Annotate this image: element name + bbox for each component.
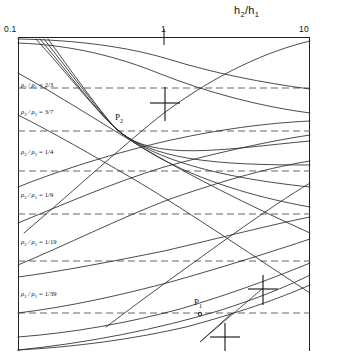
point-label-p2: P2 [115,112,123,124]
curve-label-3-7: ρ2 / ρ1 = 3/7 [21,108,53,117]
connector-p1-short [200,313,232,342]
x-axis-title: h2/h1 [234,4,259,19]
curve-cross-line-2 [106,183,310,327]
curve-family-a3 [44,39,310,165]
cross-marker-upper [150,87,180,121]
cross-marker-bottom [210,323,240,351]
curve-upper-1 [18,39,310,89]
curve-rising-2 [18,135,310,223]
resistivity-curves [18,39,310,350]
x-tick-label-min: 0.1 [4,24,16,34]
cross-marker-lower-right [248,275,278,305]
curve-cross-line-1 [24,41,310,233]
plot-area: ρ2 / ρ1 = 2/3 ρ2 / ρ1 = 3/7 ρ2 / ρ1 = 1/… [18,37,310,351]
curve-label-2-3: ρ2 / ρ1 = 2/3 [21,81,53,90]
curve-lower-1 [18,217,310,277]
connector-lines [200,289,262,342]
point-label-p1: P1 [194,297,202,309]
x-tick-label-max: 10 [299,24,309,34]
x-axis-title-text: h2/h1 [234,4,259,16]
curves-layer [18,37,310,351]
resistivity-nomogram-figure: h2/h1 0.1 1 10 [0,0,358,362]
curve-label-1-4: ρ2 / ρ1 = 1/4 [21,148,53,157]
point-markers [150,87,278,351]
curve-bottom-arc [18,275,310,350]
curve-label-1-39: ρ2 / ρ1 = 1/39 [21,290,57,299]
curve-label-1-9: ρ2 / ρ1 = 1/9 [21,191,53,200]
curve-lower-4 [18,285,310,350]
curve-label-1-19: ρ2 / ρ1 = 1/19 [21,238,57,247]
